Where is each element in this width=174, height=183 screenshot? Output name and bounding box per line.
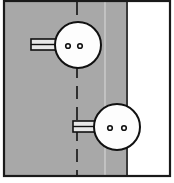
lower-fastener [94, 104, 140, 150]
upper-hole-right [78, 44, 83, 49]
upper-hole-left [66, 44, 71, 49]
lower-fastener-circle [94, 104, 140, 150]
figure-container [0, 0, 174, 183]
lower-hole-right [122, 126, 127, 131]
unshaded-area [127, 2, 169, 175]
upper-fastener [55, 22, 101, 68]
lower-hole-left [108, 126, 113, 131]
technical-drawing [0, 0, 174, 183]
